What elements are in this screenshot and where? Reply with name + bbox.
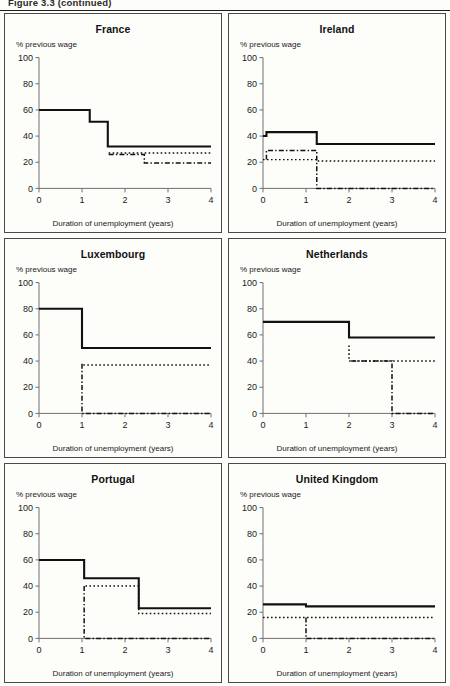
svg-text:20: 20 bbox=[247, 382, 257, 392]
svg-text:2: 2 bbox=[346, 645, 351, 655]
svg-text:80: 80 bbox=[23, 304, 33, 314]
x-axis-label: Duration of unemployment (years) bbox=[5, 669, 221, 678]
svg-text:60: 60 bbox=[23, 330, 33, 340]
plot-area: 02040608010001234 bbox=[5, 14, 221, 232]
svg-text:20: 20 bbox=[23, 157, 33, 167]
svg-text:80: 80 bbox=[23, 79, 33, 89]
svg-text:0: 0 bbox=[36, 195, 41, 205]
svg-text:0: 0 bbox=[28, 184, 33, 194]
x-axis-label: Duration of unemployment (years) bbox=[229, 669, 445, 678]
chart-panel-united-kingdom: United Kingdom % previous wage 020406080… bbox=[228, 463, 446, 683]
svg-text:2: 2 bbox=[346, 420, 351, 430]
svg-text:100: 100 bbox=[242, 503, 257, 513]
svg-text:3: 3 bbox=[165, 420, 170, 430]
plot-area: 02040608010001234 bbox=[5, 239, 221, 457]
header-divider bbox=[0, 10, 450, 11]
svg-text:1: 1 bbox=[79, 195, 84, 205]
svg-text:100: 100 bbox=[18, 278, 33, 288]
svg-text:0: 0 bbox=[28, 634, 33, 644]
svg-text:80: 80 bbox=[247, 79, 257, 89]
svg-text:100: 100 bbox=[242, 278, 257, 288]
svg-text:0: 0 bbox=[252, 634, 257, 644]
svg-text:1: 1 bbox=[79, 645, 84, 655]
chart-panel-netherlands: Netherlands % previous wage 020406080100… bbox=[228, 238, 446, 458]
svg-text:3: 3 bbox=[389, 645, 394, 655]
svg-text:4: 4 bbox=[432, 420, 437, 430]
svg-text:0: 0 bbox=[260, 420, 265, 430]
chart-panel-portugal: Portugal % previous wage 020406080100012… bbox=[4, 463, 222, 683]
svg-text:1: 1 bbox=[303, 420, 308, 430]
figure-caption: Figure 3.3 (continued) bbox=[8, 0, 112, 8]
svg-text:80: 80 bbox=[247, 529, 257, 539]
svg-text:3: 3 bbox=[389, 420, 394, 430]
svg-text:4: 4 bbox=[432, 645, 437, 655]
svg-text:80: 80 bbox=[23, 529, 33, 539]
svg-text:20: 20 bbox=[23, 382, 33, 392]
svg-text:40: 40 bbox=[247, 581, 257, 591]
svg-text:40: 40 bbox=[23, 581, 33, 591]
svg-text:0: 0 bbox=[28, 409, 33, 419]
svg-text:1: 1 bbox=[303, 645, 308, 655]
plot-area: 02040608010001234 bbox=[229, 239, 445, 457]
panel-grid: France % previous wage 02040608010001234… bbox=[0, 13, 450, 685]
svg-text:60: 60 bbox=[247, 330, 257, 340]
svg-text:4: 4 bbox=[208, 645, 213, 655]
svg-text:2: 2 bbox=[122, 420, 127, 430]
svg-text:3: 3 bbox=[165, 195, 170, 205]
svg-text:60: 60 bbox=[247, 105, 257, 115]
plot-area: 02040608010001234 bbox=[5, 464, 221, 682]
svg-text:0: 0 bbox=[252, 409, 257, 419]
svg-text:100: 100 bbox=[18, 53, 33, 63]
svg-text:20: 20 bbox=[247, 607, 257, 617]
svg-text:100: 100 bbox=[18, 503, 33, 513]
svg-text:2: 2 bbox=[122, 645, 127, 655]
svg-text:20: 20 bbox=[247, 157, 257, 167]
svg-text:0: 0 bbox=[260, 645, 265, 655]
svg-text:0: 0 bbox=[36, 420, 41, 430]
svg-text:40: 40 bbox=[23, 356, 33, 366]
svg-text:1: 1 bbox=[303, 195, 308, 205]
svg-text:100: 100 bbox=[242, 53, 257, 63]
figure-page: Figure 3.3 (continued) France % previous… bbox=[0, 0, 450, 686]
svg-text:40: 40 bbox=[247, 356, 257, 366]
svg-text:4: 4 bbox=[208, 420, 213, 430]
svg-text:2: 2 bbox=[346, 195, 351, 205]
chart-panel-ireland: Ireland % previous wage 0204060801000123… bbox=[228, 13, 446, 233]
svg-text:2: 2 bbox=[122, 195, 127, 205]
svg-text:0: 0 bbox=[36, 645, 41, 655]
svg-text:40: 40 bbox=[23, 131, 33, 141]
svg-text:0: 0 bbox=[252, 184, 257, 194]
svg-text:0: 0 bbox=[260, 195, 265, 205]
svg-text:60: 60 bbox=[247, 555, 257, 565]
x-axis-label: Duration of unemployment (years) bbox=[5, 219, 221, 228]
svg-text:4: 4 bbox=[208, 195, 213, 205]
svg-text:60: 60 bbox=[23, 555, 33, 565]
svg-text:3: 3 bbox=[165, 645, 170, 655]
x-axis-label: Duration of unemployment (years) bbox=[229, 444, 445, 453]
svg-text:40: 40 bbox=[247, 131, 257, 141]
svg-text:80: 80 bbox=[247, 304, 257, 314]
svg-text:4: 4 bbox=[432, 195, 437, 205]
x-axis-label: Duration of unemployment (years) bbox=[229, 219, 445, 228]
svg-text:1: 1 bbox=[79, 420, 84, 430]
svg-text:60: 60 bbox=[23, 105, 33, 115]
chart-panel-luxembourg: Luxembourg % previous wage 0204060801000… bbox=[4, 238, 222, 458]
svg-text:3: 3 bbox=[389, 195, 394, 205]
plot-area: 02040608010001234 bbox=[229, 14, 445, 232]
svg-text:20: 20 bbox=[23, 607, 33, 617]
x-axis-label: Duration of unemployment (years) bbox=[5, 444, 221, 453]
plot-area: 02040608010001234 bbox=[229, 464, 445, 682]
chart-panel-france: France % previous wage 02040608010001234… bbox=[4, 13, 222, 233]
